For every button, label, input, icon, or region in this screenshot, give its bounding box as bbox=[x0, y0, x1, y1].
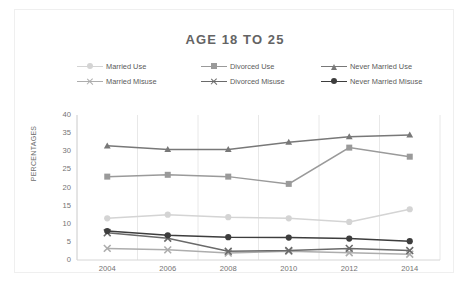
data-point-marker bbox=[225, 234, 231, 240]
x-tick-label: 2014 bbox=[390, 264, 430, 273]
x-tick-label: 2006 bbox=[148, 264, 188, 273]
data-point-marker bbox=[225, 174, 231, 180]
y-tick-label: 15 bbox=[47, 201, 71, 210]
y-tick-label: 30 bbox=[47, 146, 71, 155]
plot-svg bbox=[15, 10, 455, 274]
data-point-marker bbox=[165, 172, 171, 178]
data-point-marker bbox=[165, 232, 171, 238]
y-tick-label: 40 bbox=[47, 110, 71, 119]
data-point-marker bbox=[346, 219, 352, 225]
y-tick-label: 25 bbox=[47, 164, 71, 173]
data-point-marker bbox=[407, 206, 413, 212]
y-tick-label: 5 bbox=[47, 237, 71, 246]
data-point-marker bbox=[104, 215, 110, 221]
data-point-marker bbox=[165, 212, 171, 218]
data-point-marker bbox=[104, 174, 110, 180]
x-tick-label: 2004 bbox=[87, 264, 127, 273]
data-point-marker bbox=[346, 145, 352, 151]
y-tick-label: 35 bbox=[47, 128, 71, 137]
y-tick-label: 20 bbox=[47, 183, 71, 192]
data-point-marker bbox=[407, 154, 413, 160]
data-point-marker bbox=[225, 214, 231, 220]
y-tick-label: 0 bbox=[47, 255, 71, 264]
data-point-marker bbox=[286, 234, 292, 240]
data-point-marker bbox=[286, 181, 292, 187]
x-tick-label: 2008 bbox=[208, 264, 248, 273]
x-tick-label: 2010 bbox=[269, 264, 309, 273]
data-point-marker bbox=[286, 215, 292, 221]
plot-area: PERCENTAGES 0510152025303540200420062008… bbox=[15, 10, 455, 274]
data-point-marker bbox=[104, 228, 110, 234]
y-tick-label: 10 bbox=[47, 219, 71, 228]
data-point-marker bbox=[346, 236, 352, 242]
data-point-marker bbox=[407, 238, 413, 244]
x-tick-label: 2012 bbox=[329, 264, 369, 273]
chart-container: AGE 18 TO 25 Married UseDivorced UseNeve… bbox=[14, 9, 454, 273]
